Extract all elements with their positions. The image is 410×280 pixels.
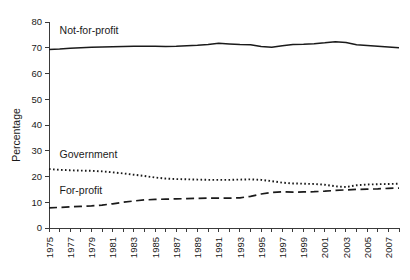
y-tick-label: 10 (31, 197, 42, 208)
series-label-1: Government (60, 148, 118, 160)
y-tick-label: 80 (31, 16, 42, 27)
x-tick-label: 1995 (256, 237, 267, 258)
y-tick-label: 50 (31, 94, 42, 105)
y-tick-label: 60 (31, 68, 42, 79)
x-tick-label: 1985 (150, 237, 161, 258)
y-tick-label: 70 (31, 42, 42, 53)
x-tick-label: 1997 (277, 237, 288, 258)
x-tick-label: 1979 (86, 237, 97, 258)
chart-axes: 0102030405060708019751977197919811983198… (31, 16, 399, 258)
series-line-0 (49, 42, 399, 50)
x-tick-label: 1999 (298, 237, 309, 258)
chart-container: 0102030405060708019751977197919811983198… (0, 0, 410, 280)
x-tick-label: 2005 (362, 237, 373, 258)
x-tick-label: 1991 (213, 237, 224, 258)
x-tick-label: 1993 (235, 237, 246, 258)
y-tick-label: 30 (31, 145, 42, 156)
x-tick-label: 2003 (341, 237, 352, 258)
y-tick-label: 40 (31, 119, 42, 130)
y-tick-label: 0 (37, 222, 42, 233)
line-chart: 0102030405060708019751977197919811983198… (0, 0, 410, 280)
x-tick-label: 1983 (128, 237, 139, 258)
x-tick-label: 1987 (171, 237, 182, 258)
x-tick-label: 1977 (65, 237, 76, 258)
x-tick-label: 1989 (192, 237, 203, 258)
x-tick-label: 1981 (107, 237, 118, 258)
y-axis-title: Percentage (10, 108, 22, 162)
series-label-2: For-profit (60, 184, 103, 196)
chart-series (49, 42, 399, 208)
x-tick-label: 1975 (44, 237, 55, 258)
series-label-0: Not-for-profit (60, 24, 119, 36)
x-tick-label: 2001 (319, 237, 330, 258)
x-tick-label: 2007 (383, 237, 394, 258)
y-tick-label: 20 (31, 171, 42, 182)
